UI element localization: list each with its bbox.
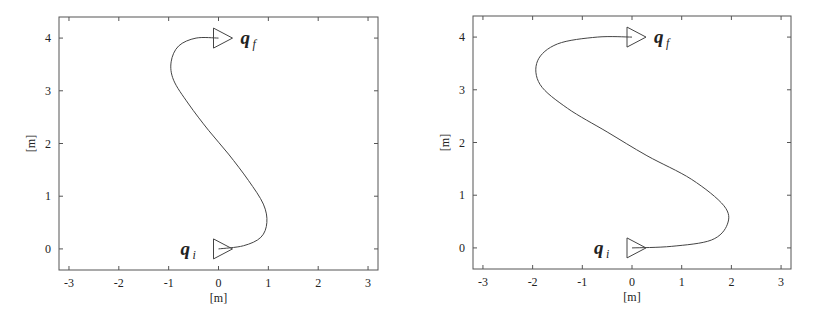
y-tick-label: 1 (45, 189, 51, 203)
trajectory-line (171, 37, 267, 248)
x-tick-label: 1 (679, 275, 685, 289)
y-tick-label: 3 (45, 84, 51, 98)
y-axis-label: [m] (24, 135, 38, 152)
y-tick-label: 4 (459, 30, 465, 44)
label-q-final: q (654, 26, 664, 47)
y-axis-label: [m] (438, 134, 452, 151)
pose-marker-icon (214, 239, 233, 259)
x-tick-label: -3 (64, 276, 74, 290)
x-tick-label: -2 (528, 275, 538, 289)
y-tick-label: 3 (459, 83, 465, 97)
y-tick-label: 2 (459, 136, 465, 150)
label-q-initial: q (594, 237, 604, 258)
label-subscript: f (253, 37, 258, 51)
x-tick-label: 2 (315, 276, 321, 290)
pose-marker-icon (627, 27, 646, 47)
x-tick-label: -3 (478, 275, 488, 289)
y-tick-label: 0 (459, 241, 465, 255)
x-tick-label: -1 (164, 276, 174, 290)
pose-marker-icon (627, 238, 646, 258)
x-tick-label: -2 (114, 276, 124, 290)
x-tick-label: 1 (265, 276, 271, 290)
x-tick-label: -1 (577, 275, 587, 289)
x-tick-label: 2 (728, 275, 734, 289)
subplot-2: -3-2-1012301234[m][m]qiqf (438, 16, 791, 304)
label-q-final: q (241, 27, 251, 48)
figure-canvas: -3-2-1012301234[m][m]qiqf-3-2-1012301234… (0, 0, 817, 326)
subplot-1: -3-2-1012301234[m][m]qiqf (24, 17, 378, 305)
x-axis-label: [m] (623, 290, 640, 304)
y-tick-label: 2 (45, 137, 51, 151)
y-tick-label: 0 (45, 242, 51, 256)
label-subscript: f (666, 36, 671, 50)
axes-frame (473, 16, 791, 269)
x-tick-label: 0 (629, 275, 635, 289)
y-tick-label: 1 (459, 188, 465, 202)
x-tick-label: 3 (365, 276, 371, 290)
label-q-initial: q (181, 238, 191, 259)
label-subscript: i (606, 247, 609, 261)
figure: -3-2-1012301234[m][m]qiqf-3-2-1012301234… (0, 0, 817, 326)
x-tick-label: 3 (778, 275, 784, 289)
x-axis-label: [m] (210, 291, 227, 305)
x-tick-label: 0 (216, 276, 222, 290)
y-tick-label: 4 (45, 31, 51, 45)
label-subscript: i (193, 248, 196, 262)
trajectory-line (536, 37, 729, 248)
pose-marker-icon (214, 28, 233, 48)
axes-frame (59, 17, 378, 270)
